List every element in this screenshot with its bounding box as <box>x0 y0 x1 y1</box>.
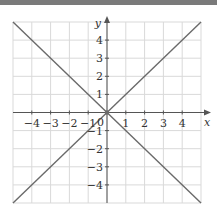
origin-label: 0 <box>97 116 104 129</box>
y-tick-label: 2 <box>96 70 103 83</box>
x-tick-label: −2 <box>61 117 77 130</box>
y-tick-label: 3 <box>96 52 103 65</box>
y-tick-label: 1 <box>96 88 103 101</box>
y-tick-label: 4 <box>96 34 103 47</box>
y-axis-label: y <box>94 17 102 30</box>
y-axis-arrow-icon <box>104 16 110 23</box>
x-tick-label: 1 <box>122 117 129 130</box>
y-tick-label: −3 <box>87 161 103 174</box>
x-tick-label: 3 <box>160 117 167 130</box>
x-tick-label: −3 <box>42 117 58 130</box>
y-tick-label: −4 <box>87 179 103 192</box>
x-tick-label: 2 <box>141 117 148 130</box>
x-axis-label: x <box>204 116 211 129</box>
y-tick-label: −2 <box>87 143 103 156</box>
chart-plot: −4−3−2−11234−4−3−2−112340xy <box>0 0 217 220</box>
x-tick-label: 4 <box>179 117 186 130</box>
x-tick-label: −4 <box>24 117 40 130</box>
origin-point <box>105 110 109 114</box>
